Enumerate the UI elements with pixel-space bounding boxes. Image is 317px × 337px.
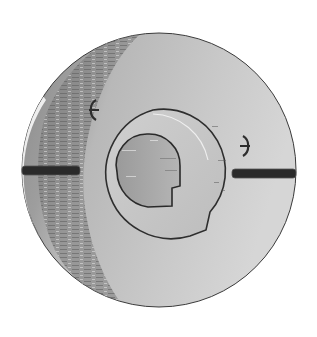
disk-illustration	[0, 0, 317, 337]
disk-part-graphic	[0, 0, 317, 337]
right-slot	[232, 169, 296, 178]
center-bore	[116, 134, 180, 207]
left-slot	[22, 166, 80, 175]
